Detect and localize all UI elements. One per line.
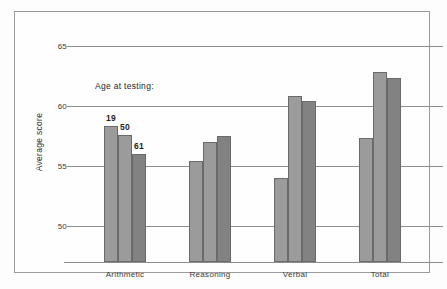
bar-arithmetic-61 — [132, 154, 146, 262]
bar-reasoning-61 — [217, 136, 231, 262]
y-tick-label-65: 65 — [58, 42, 67, 51]
bar-verbal-19 — [274, 178, 288, 262]
y-tick-label-50: 50 — [58, 222, 67, 231]
plot-area: 50556065 ArithmeticReasoningVerbalTotal … — [72, 46, 443, 262]
bar-total-61 — [387, 78, 401, 262]
bar-total-50 — [373, 72, 387, 262]
bar-reasoning-19 — [189, 161, 203, 262]
y-tick-mark-55 — [67, 166, 72, 167]
x-tick-label-total: Total — [371, 270, 389, 279]
x-tick-label-reasoning: Reasoning — [190, 270, 231, 279]
legend-age-label-61: 61 — [134, 141, 144, 151]
bar-arithmetic-19 — [104, 126, 118, 262]
y-tick-label-60: 60 — [58, 102, 67, 111]
x-tick-label-verbal: Verbal — [283, 270, 307, 279]
chart-figure: Average score Age at testing: 50556065 A… — [0, 0, 447, 289]
x-axis-line — [64, 262, 443, 263]
y-tick-label-55: 55 — [58, 162, 67, 171]
y-tick-mark-60 — [67, 106, 72, 107]
bar-arithmetic-50 — [118, 135, 132, 262]
chart-frame: Average score Age at testing: 50556065 A… — [14, 11, 430, 273]
legend-age-label-19: 19 — [106, 113, 116, 123]
legend-age-label-50: 50 — [120, 122, 130, 132]
y-axis-title: Average score — [34, 113, 44, 172]
gridline-65 — [72, 46, 443, 47]
x-tick-label-arithmetic: Arithmetic — [106, 270, 145, 279]
y-tick-mark-65 — [67, 46, 72, 47]
bar-reasoning-50 — [203, 142, 217, 262]
bar-verbal-61 — [302, 101, 316, 262]
bar-total-19 — [359, 138, 373, 262]
y-tick-mark-50 — [67, 226, 72, 227]
bar-verbal-50 — [288, 96, 302, 262]
